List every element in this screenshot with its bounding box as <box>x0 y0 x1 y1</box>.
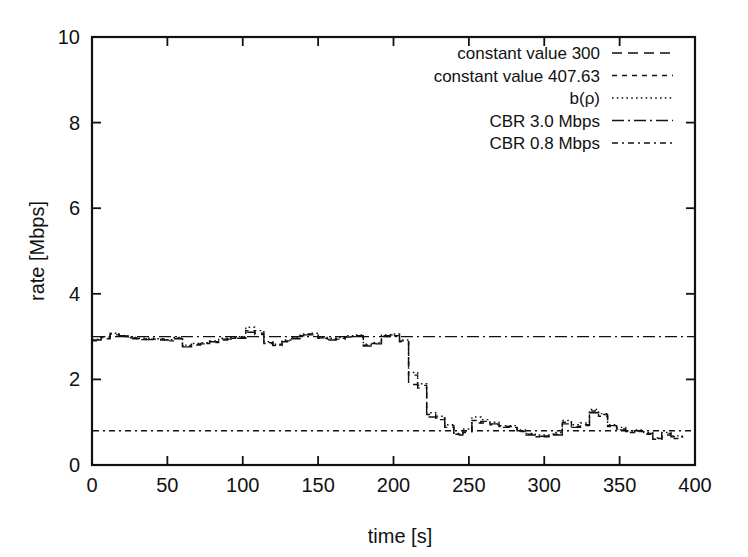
x-tick-labels: 050100150200250300350400 <box>86 474 711 496</box>
x-tick-label: 350 <box>603 474 636 496</box>
axis-ticks <box>92 37 695 465</box>
x-tick-label: 200 <box>377 474 410 496</box>
legend-label: constant value 407.63 <box>434 67 600 86</box>
x-tick-label: 400 <box>678 474 711 496</box>
x-tick-label: 250 <box>452 474 485 496</box>
plot-frame <box>92 37 695 465</box>
x-axis-title: time [s] <box>368 525 432 547</box>
legend: constant value 300constant value 407.63b… <box>434 44 673 153</box>
x-tick-label: 300 <box>528 474 561 496</box>
y-tick-label: 10 <box>58 26 80 48</box>
x-tick-label: 150 <box>301 474 334 496</box>
series-line <box>92 332 683 438</box>
y-tick-label: 0 <box>69 454 80 476</box>
y-tick-label: 2 <box>69 368 80 390</box>
y-tick-label: 8 <box>69 112 80 134</box>
y-tick-label: 4 <box>69 283 80 305</box>
legend-label: CBR 0.8 Mbps <box>489 134 600 153</box>
constant-lines <box>93 337 694 431</box>
series-line <box>92 331 683 440</box>
data-series <box>92 327 683 439</box>
x-tick-label: 0 <box>86 474 97 496</box>
y-tick-labels: 0246810 <box>58 26 80 476</box>
plot-canvas: 050100150200250300350400 0246810 constan… <box>0 0 748 557</box>
legend-label: b(ρ) <box>570 89 600 108</box>
chart-figure: 050100150200250300350400 0246810 constan… <box>0 0 748 557</box>
y-tick-label: 6 <box>69 197 80 219</box>
legend-label: constant value 300 <box>457 44 600 63</box>
x-tick-label: 100 <box>226 474 259 496</box>
series-line <box>92 327 683 437</box>
legend-label: CBR 3.0 Mbps <box>489 112 600 131</box>
y-axis-title: rate [Mbps] <box>26 201 48 301</box>
x-tick-label: 50 <box>156 474 178 496</box>
